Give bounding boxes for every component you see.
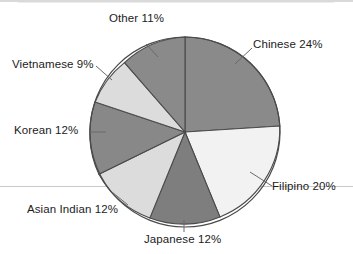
slice-label-asian-indian: Asian Indian 12%	[27, 203, 118, 215]
slice-label-korean: Korean 12%	[14, 124, 78, 136]
slice-label-chinese: Chinese 24%	[253, 38, 323, 50]
pie-slice-chinese	[185, 37, 280, 132]
slice-label-japanese: Japanese 12%	[144, 233, 221, 245]
slice-label-filipino: Filipino 20%	[272, 180, 336, 192]
leader-line-vietnamese	[96, 66, 112, 80]
slice-label-other: Other 11%	[109, 12, 164, 24]
slice-label-vietnamese: Vietnamese 9%	[12, 58, 94, 70]
pie-chart-figure: Chinese 24% Filipino 20% Japanese 12% As…	[0, 0, 353, 254]
